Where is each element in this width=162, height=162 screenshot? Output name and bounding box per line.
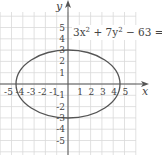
- y-tick-label: 4: [59, 34, 65, 44]
- x-tick-label: -2: [38, 87, 47, 97]
- eq-part-b: + 7y: [90, 26, 118, 38]
- y-tick-label: 3: [59, 45, 65, 55]
- x-axis-label: x: [142, 85, 149, 98]
- x-tick-label: 5: [123, 87, 129, 97]
- graph: -5-4-3-2-112345 54321-1-2-3-4-5 x y 3x2 …: [0, 0, 162, 162]
- y-tick-label: -4: [56, 124, 65, 134]
- x-tick-label: 1: [77, 87, 83, 97]
- eq-part-c: − 63 = 0: [123, 26, 162, 38]
- y-tick-label: 1: [59, 68, 65, 78]
- x-tick-label: 4: [111, 87, 117, 97]
- y-tick-label: -2: [56, 102, 65, 112]
- x-tick-label: 2: [89, 87, 95, 97]
- y-tick-label: 2: [59, 56, 65, 66]
- eq-part-a: 3x: [73, 26, 86, 38]
- y-tick-label: -5: [56, 136, 65, 146]
- y-axis-label: y: [55, 0, 63, 13]
- y-tick-label: -1: [56, 90, 65, 100]
- x-tick-label: 3: [100, 87, 106, 97]
- y-tick-label: 5: [59, 23, 65, 33]
- y-tick-label: -3: [56, 113, 65, 123]
- x-tick-label: -4: [15, 87, 24, 97]
- x-tick-label: -5: [4, 87, 13, 97]
- x-tick-label: -3: [27, 87, 36, 97]
